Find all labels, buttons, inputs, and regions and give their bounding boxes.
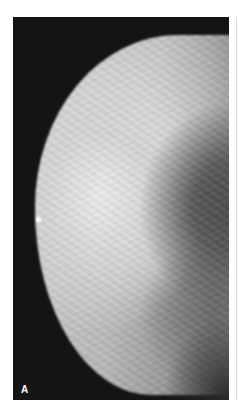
mammogram-image: A: [13, 17, 229, 400]
page-divider: [236, 17, 237, 400]
skin-marker-dot: [36, 217, 41, 222]
tissue-shadow: [163, 317, 229, 400]
panel-label: A: [21, 385, 28, 395]
